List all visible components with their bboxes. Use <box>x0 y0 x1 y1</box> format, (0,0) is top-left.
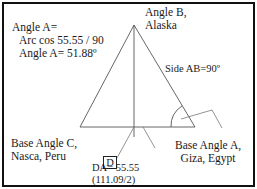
vertex-b-label: Angle B, Alaska <box>145 6 187 32</box>
vertex-b-label-line1: Angle B, <box>145 6 187 19</box>
da-value-line2: (111.09/2) <box>92 174 139 186</box>
vertex-a-label-line1: Base Angle A, <box>175 139 241 152</box>
da-value-label: DA= 55.55 (111.09/2) <box>92 162 139 186</box>
side-ab-label: Side AB=90º <box>165 63 220 75</box>
angle-a-formula-line2: Arc cos 55.55 / 90 <box>12 34 104 47</box>
vertex-c-label: Base Angle C, Nasca, Peru <box>11 137 77 163</box>
da-leader <box>143 127 155 148</box>
angle-a-leader <box>181 110 222 128</box>
vertex-b-label-line2: Alaska <box>145 19 187 32</box>
vertex-c-label-line1: Base Angle C, <box>11 137 77 150</box>
vertex-a-label-line2: Giza, Egypt <box>175 152 241 165</box>
angle-a-arc <box>171 106 182 127</box>
angle-a-formula: Angle A= Arc cos 55.55 / 90 Angle A= 51.… <box>12 21 104 60</box>
vertex-c-label-line2: Nasca, Peru <box>11 150 77 163</box>
side-ab <box>134 25 195 127</box>
angle-a-formula-line3: Angle A= 51.88º <box>12 47 104 60</box>
angle-a-formula-line1: Angle A= <box>12 21 104 34</box>
da-value-line1: DA= 55.55 <box>92 162 139 174</box>
d-leader <box>117 127 134 158</box>
vertex-a-label: Base Angle A, Giza, Egypt <box>175 139 241 165</box>
